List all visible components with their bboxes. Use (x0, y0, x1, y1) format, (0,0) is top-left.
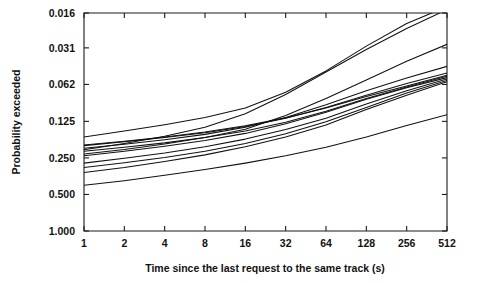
x-tick-label: 256 (398, 237, 416, 249)
x-tick-label: 512 (438, 237, 456, 249)
series-line (84, 44, 447, 154)
x-tick-label: 32 (280, 237, 292, 249)
x-tick-label: 1 (81, 237, 87, 249)
y-tick-label: 0.250 (49, 152, 75, 164)
x-tick-label: 8 (202, 237, 208, 249)
x-tick-label: 2 (121, 237, 127, 249)
x-tick-label: 4 (162, 237, 168, 249)
x-tick-label: 128 (358, 237, 376, 249)
x-axis-title: Time since the last request to the same … (145, 262, 385, 274)
y-tick-label: 1.000 (49, 225, 75, 237)
x-tick-label: 64 (320, 237, 332, 249)
y-axis-title: Probability exceeded (10, 69, 22, 174)
y-tick-label: 0.500 (49, 188, 75, 200)
chart-canvas: 0.0160.0310.0620.1250.2500.5001.000 1248… (0, 0, 477, 283)
series-line (84, 7, 447, 137)
y-tick-label: 0.016 (49, 7, 75, 19)
series-line (84, 115, 447, 186)
series-line (84, 80, 447, 167)
x-tick-label: 16 (239, 237, 251, 249)
y-axis-tick-labels: 0.0160.0310.0620.1250.2500.5001.000 (49, 7, 75, 237)
series-line (84, 66, 447, 148)
chart-series-lines (84, 7, 447, 186)
y-tick-label: 0.125 (49, 115, 75, 127)
x-axis-tick-labels: 1248163264128256512 (81, 237, 456, 249)
y-tick-label: 0.031 (49, 42, 75, 54)
chart-figure: 0.0160.0310.0620.1250.2500.5001.000 1248… (0, 0, 477, 283)
y-tick-label: 0.062 (49, 78, 75, 90)
